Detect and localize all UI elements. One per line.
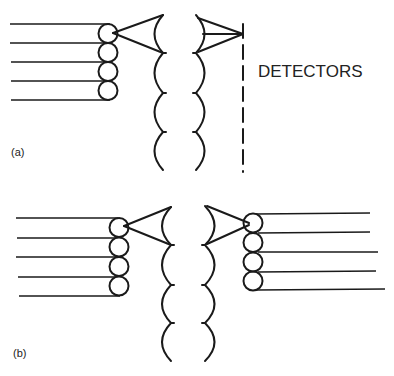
fiber-line: [256, 213, 370, 214]
panel-a: DETECTORS (a): [10, 15, 363, 172]
beam-cone-input-b: [124, 207, 171, 245]
lens-cusps: [193, 53, 196, 132]
panel-b-label: (b): [13, 347, 26, 359]
optical-diagram: DETECTORS (a): [0, 0, 394, 376]
microlens: [99, 43, 118, 62]
detectors-label: DETECTORS: [258, 62, 363, 81]
panel-b: (b): [13, 206, 385, 361]
panel-a-label: (a): [11, 146, 24, 158]
microlens: [110, 238, 129, 257]
microlens: [99, 81, 118, 100]
fiber-line: [258, 271, 376, 272]
input-fiber-bundle-b: [16, 218, 120, 296]
microlens: [244, 272, 263, 291]
fiber-line: [258, 232, 370, 233]
lens-cusps: [163, 53, 166, 132]
microlens: [110, 257, 129, 276]
microlens: [244, 233, 263, 252]
fiber-line: [256, 289, 385, 290]
microlens: [99, 62, 118, 81]
lens-cusps: [202, 245, 205, 323]
lens-array-left-a: [155, 15, 164, 170]
lens-array-right-b: [205, 206, 215, 361]
lens-array-left-b: [162, 207, 171, 361]
microlens: [244, 253, 263, 272]
lens-array-right-a: [196, 15, 205, 170]
beam-cone-output-a: [198, 18, 243, 52]
output-fiber-bundle-b: [256, 213, 385, 290]
input-fiber-bundle-a: [10, 24, 110, 100]
lens-cusps: [171, 245, 174, 323]
microlens: [110, 277, 129, 296]
